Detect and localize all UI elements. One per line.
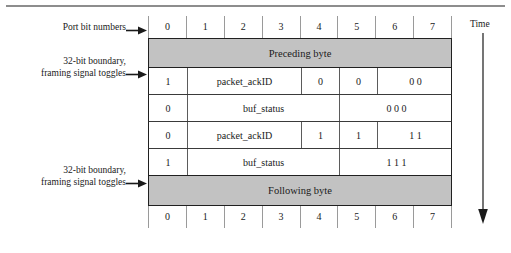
bit-cell: 0 <box>301 68 339 94</box>
port-bit-numbers-arrow-icon <box>126 22 148 40</box>
bit-cell: 0 <box>149 122 187 148</box>
bit-cell: 1 <box>149 149 187 175</box>
boundary-label-bottom: 32-bit boundary, framing signal toggles <box>6 165 126 188</box>
byte-row-label: Preceding byte <box>149 39 451 67</box>
bit-cell: 0 0 0 <box>339 95 453 121</box>
bit-cell: 1 1 1 <box>339 149 453 175</box>
field-cell-buf-status: buf_status <box>187 95 339 121</box>
port-bit-cell: 1 <box>186 16 224 38</box>
port-bit-cell: 7 <box>413 16 451 38</box>
bit-cell: 1 <box>301 122 339 148</box>
port-bit-header-bottom: 0 1 2 3 4 5 6 7 <box>148 206 452 228</box>
port-bit-cell: 0 <box>148 16 186 38</box>
time-axis-label: Time <box>470 19 490 29</box>
port-bit-cell: 0 <box>148 206 186 228</box>
bit-cell: 1 1 <box>377 122 453 148</box>
port-bit-header-end-tick <box>451 206 452 228</box>
bit-cell: 0 0 <box>377 68 453 94</box>
byte-row-data: 1 packet_ackID 0 0 0 0 <box>148 68 452 95</box>
boundary-label-top-line2: framing signal toggles <box>6 68 126 80</box>
port-bit-cell: 3 <box>262 16 300 38</box>
port-bit-cell: 4 <box>300 206 338 228</box>
byte-row-label: Following byte <box>149 176 451 205</box>
byte-row-preceding: Preceding byte <box>148 38 452 68</box>
bit-cell: 1 <box>339 122 377 148</box>
port-bit-cell: 6 <box>375 206 413 228</box>
port-bit-cell: 1 <box>186 206 224 228</box>
byte-row-data: 0 buf_status 0 0 0 <box>148 95 452 122</box>
boundary-label-top-line1: 32-bit boundary, <box>6 56 126 68</box>
port-bit-cell: 3 <box>262 206 300 228</box>
field-cell-packet-ackid: packet_ackID <box>187 68 301 94</box>
byte-row-data: 0 packet_ackID 1 1 1 1 <box>148 122 452 149</box>
port-bit-cell: 6 <box>375 16 413 38</box>
boundary-label-bottom-line1: 32-bit boundary, <box>6 165 126 177</box>
port-bit-cell: 5 <box>337 16 375 38</box>
boundary-bottom-arrow-icon <box>126 175 148 193</box>
boundary-label-top: 32-bit boundary, framing signal toggles <box>6 56 126 79</box>
top-divider-rule <box>6 5 505 7</box>
field-cell-buf-status: buf_status <box>187 149 339 175</box>
port-bit-header-end-tick <box>451 16 452 38</box>
port-bit-header-top: 0 1 2 3 4 5 6 7 <box>148 16 452 38</box>
boundary-top-arrow-icon <box>126 66 148 84</box>
byte-row-following: Following byte <box>148 176 452 206</box>
bit-cell: 0 <box>149 95 187 121</box>
bit-cell: 1 <box>149 68 187 94</box>
port-bit-numbers-text: Port bit numbers <box>14 22 126 34</box>
port-bit-cell: 7 <box>413 206 451 228</box>
port-bit-cell: 2 <box>224 206 262 228</box>
port-bit-numbers-label: Port bit numbers <box>14 22 126 34</box>
port-bit-cell: 5 <box>337 206 375 228</box>
field-cell-packet-ackid: packet_ackID <box>187 122 301 148</box>
byte-row-data: 1 buf_status 1 1 1 <box>148 149 452 176</box>
port-bit-cell: 2 <box>224 16 262 38</box>
bit-cell: 0 <box>339 68 377 94</box>
boundary-label-bottom-line2: framing signal toggles <box>6 177 126 189</box>
byte-stream-diagram: 0 1 2 3 4 5 6 7 Preceding byte 1 packet_… <box>148 16 452 228</box>
time-axis-arrow-icon <box>476 33 490 229</box>
port-bit-cell: 4 <box>300 16 338 38</box>
